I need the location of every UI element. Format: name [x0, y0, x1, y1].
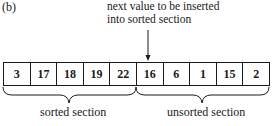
callout-line-2: into sorted section	[107, 13, 219, 26]
array-row: 3 17 18 19 22 16 6 1 15 2	[3, 62, 270, 86]
array-cell: 17	[31, 63, 58, 85]
array-cell: 19	[84, 63, 111, 85]
panel-label: (b)	[2, 0, 16, 15]
unsorted-section-label: unsorted section	[167, 105, 245, 120]
array-cell: 2	[243, 63, 269, 85]
sorted-section-label: sorted section	[40, 105, 106, 120]
callout-line-1: next value to be inserted	[107, 0, 219, 13]
array-cell-next: 16	[137, 63, 164, 85]
insert-callout: next value to be inserted into sorted se…	[107, 0, 219, 26]
array-cell: 1	[190, 63, 217, 85]
array-cell: 3	[4, 63, 31, 85]
array-cell: 22	[110, 63, 137, 85]
array-cell: 18	[57, 63, 84, 85]
down-arrow-icon	[140, 28, 156, 62]
array-cell: 6	[164, 63, 191, 85]
array-cell: 15	[217, 63, 244, 85]
